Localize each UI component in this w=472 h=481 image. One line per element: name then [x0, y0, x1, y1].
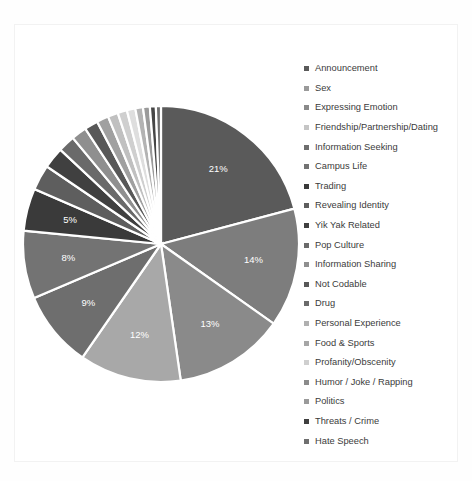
- legend-item[interactable]: Announcement: [304, 59, 464, 79]
- legend-item[interactable]: Humor / Joke / Rapping: [304, 373, 464, 393]
- legend-item-label: Trading: [315, 181, 346, 192]
- legend-item-label: Profanity/Obscenity: [315, 357, 396, 368]
- chart-page: 21%14%13%12%9%8%5% AnnouncementSexExpres…: [0, 0, 472, 481]
- legend-item[interactable]: Drug: [304, 294, 464, 314]
- legend-item[interactable]: Profanity/Obscenity: [304, 353, 464, 373]
- legend-item-label: Campus Life: [315, 161, 367, 172]
- legend-swatch-icon: [304, 86, 309, 91]
- pie-svg: 21%14%13%12%9%8%5%: [22, 105, 300, 383]
- legend-item-label: Yik Yak Related: [315, 220, 380, 231]
- legend-item[interactable]: Friendship/Partnership/Dating: [304, 118, 464, 138]
- pie-slice-label: 9%: [81, 297, 95, 308]
- legend-swatch-icon: [304, 66, 309, 71]
- legend-item-label: Sex: [315, 83, 331, 94]
- legend-item[interactable]: Trading: [304, 177, 464, 197]
- legend-swatch-icon: [304, 419, 309, 424]
- legend-item-label: Expressing Emotion: [315, 102, 398, 113]
- legend-swatch-icon: [304, 301, 309, 306]
- legend-item-label: Drug: [315, 298, 335, 309]
- legend-item-label: Announcement: [315, 63, 378, 74]
- legend-item-label: Not Codable: [315, 279, 367, 290]
- legend-swatch-icon: [304, 164, 309, 169]
- legend-item-label: Pop Culture: [315, 240, 364, 251]
- legend-item-label: Information Sharing: [315, 259, 396, 270]
- legend-item[interactable]: Threats / Crime: [304, 412, 464, 432]
- legend-swatch-icon: [304, 223, 309, 228]
- legend-swatch-icon: [304, 105, 309, 110]
- legend-swatch-icon: [304, 341, 309, 346]
- legend-item-label: Threats / Crime: [315, 416, 379, 427]
- legend-item[interactable]: Information Seeking: [304, 137, 464, 157]
- legend-item-label: Humor / Joke / Rapping: [315, 377, 413, 388]
- legend-item[interactable]: Yik Yak Related: [304, 216, 464, 236]
- legend-item[interactable]: Not Codable: [304, 275, 464, 295]
- legend-swatch-icon: [304, 203, 309, 208]
- legend-item-label: Politics: [315, 396, 344, 407]
- legend-swatch-icon: [304, 380, 309, 385]
- legend-swatch-icon: [304, 262, 309, 267]
- legend-item[interactable]: Information Sharing: [304, 255, 464, 275]
- pie-chart: 21%14%13%12%9%8%5% AnnouncementSexExpres…: [0, 0, 472, 481]
- legend-swatch-icon: [304, 184, 309, 189]
- legend-item[interactable]: Expressing Emotion: [304, 98, 464, 118]
- pie-slice-label: 8%: [61, 252, 75, 263]
- legend-item[interactable]: Revealing Identity: [304, 196, 464, 216]
- pie-slice-label: 14%: [244, 254, 264, 265]
- legend-item-label: Revealing Identity: [315, 200, 389, 211]
- legend-item[interactable]: Campus Life: [304, 157, 464, 177]
- legend-item[interactable]: Politics: [304, 392, 464, 412]
- legend-swatch-icon: [304, 399, 309, 404]
- legend-item-label: Information Seeking: [315, 142, 398, 153]
- pie-plot-area: 21%14%13%12%9%8%5%: [22, 105, 300, 383]
- legend-item-label: Hate Speech: [315, 436, 369, 447]
- legend-item-label: Personal Experience: [315, 318, 401, 329]
- legend-swatch-icon: [304, 243, 309, 248]
- legend-item[interactable]: Hate Speech: [304, 431, 464, 451]
- legend-swatch-icon: [304, 360, 309, 365]
- legend-item[interactable]: Sex: [304, 79, 464, 99]
- legend-swatch-icon: [304, 125, 309, 130]
- pie-slice-label: 13%: [200, 318, 220, 329]
- legend-item[interactable]: Food & Sports: [304, 333, 464, 353]
- legend-item[interactable]: Pop Culture: [304, 235, 464, 255]
- pie-slice-label: 21%: [209, 163, 229, 174]
- legend-item-label: Food & Sports: [315, 338, 374, 349]
- pie-slice-group: [23, 106, 299, 382]
- legend: AnnouncementSexExpressing EmotionFriends…: [304, 59, 464, 451]
- legend-swatch-icon: [304, 282, 309, 287]
- legend-swatch-icon: [304, 321, 309, 326]
- legend-item[interactable]: Personal Experience: [304, 314, 464, 334]
- legend-item-label: Friendship/Partnership/Dating: [315, 122, 438, 133]
- pie-slice-label: 12%: [130, 329, 150, 340]
- pie-slice-label: 5%: [63, 214, 77, 225]
- legend-swatch-icon: [304, 145, 309, 150]
- legend-swatch-icon: [304, 439, 309, 444]
